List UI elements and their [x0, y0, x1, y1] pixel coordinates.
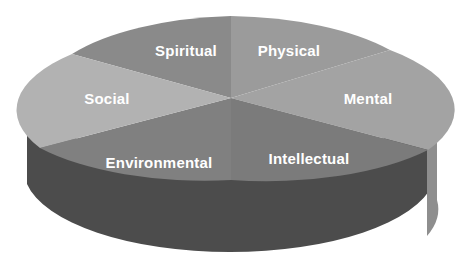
label-intellectual: Intellectual — [269, 150, 350, 167]
pie-chart-graphic — [0, 0, 464, 279]
label-physical: Physical — [258, 42, 320, 59]
label-mental: Mental — [344, 90, 393, 107]
label-environmental: Environmental — [106, 154, 213, 171]
label-spiritual: Spiritual — [155, 42, 217, 59]
label-social: Social — [84, 90, 129, 107]
pie-chart: Spiritual Physical Mental Social Environ… — [0, 0, 464, 279]
